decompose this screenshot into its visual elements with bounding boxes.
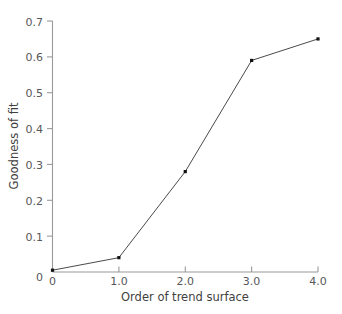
data-point-marker (316, 37, 319, 40)
line-chart: 0.7 0.6 0.5 0.4 0.3 0.2 0.1 0 0 1.0 2.0 … (0, 0, 342, 314)
x-tick-label: 3.0 (243, 275, 261, 288)
data-point-marker (184, 170, 187, 173)
y-tick-label: 0.4 (26, 123, 44, 136)
y-axis-title: Goodness of fit (7, 102, 21, 189)
y-tick-label: 0.6 (26, 51, 44, 64)
x-tick-label: 4.0 (309, 275, 327, 288)
y-tick-label: 0 (36, 271, 43, 284)
x-tick-label: 1.0 (110, 275, 128, 288)
y-tick-label: 0.1 (26, 231, 44, 244)
x-tick-label: 2.0 (177, 275, 195, 288)
y-tick-label: 0.3 (26, 159, 44, 172)
data-point-marker (117, 256, 120, 259)
chart-background (0, 0, 342, 314)
chart-figure: 0.7 0.6 0.5 0.4 0.3 0.2 0.1 0 0 1.0 2.0 … (0, 0, 342, 314)
x-tick-label: 0 (49, 275, 56, 288)
y-tick-label: 0.2 (26, 195, 44, 208)
x-axis-title: Order of trend surface (121, 290, 249, 304)
data-point-marker (51, 269, 54, 272)
y-tick-label: 0.5 (26, 87, 44, 100)
data-point-marker (250, 59, 253, 62)
y-tick-label: 0.7 (26, 16, 44, 29)
